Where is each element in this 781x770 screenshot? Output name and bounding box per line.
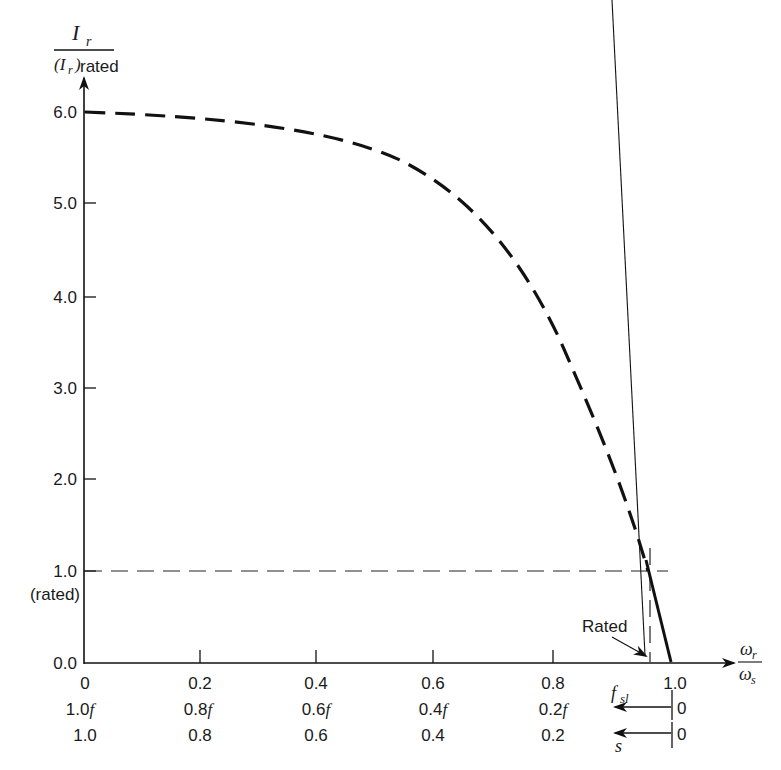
svg-text:Rated: Rated <box>582 617 627 636</box>
svg-text:0: 0 <box>80 674 89 693</box>
x-tick-labels: 0 0.2 0.4 0.6 0.8 1.0 <box>80 674 687 693</box>
svg-text:3.0: 3.0 <box>53 379 77 398</box>
svg-text:(rated): (rated) <box>30 585 80 604</box>
svg-text:0.4f: 0.4f <box>419 700 450 719</box>
svg-text:I: I <box>71 20 81 45</box>
svg-text:r: r <box>68 63 73 77</box>
svg-text:0.2f: 0.2f <box>539 700 570 719</box>
svg-text:4.0: 4.0 <box>53 288 77 307</box>
slip-direction-arrow: s 0 <box>615 722 686 756</box>
svg-text:0.0: 0.0 <box>53 654 77 673</box>
svg-text:rated: rated <box>80 57 119 76</box>
svg-text:0.8: 0.8 <box>188 726 212 745</box>
svg-text:r: r <box>86 34 92 49</box>
svg-text:0.4: 0.4 <box>421 726 445 745</box>
svg-text:r: r <box>752 648 757 662</box>
svg-text:f: f <box>611 683 619 703</box>
svg-text:0: 0 <box>677 725 686 744</box>
svg-text:0.6f: 0.6f <box>302 700 333 719</box>
x-axis-label: ω r ω s <box>738 639 762 687</box>
y-tick-labels: 0.0 1.0 (rated) 2.0 3.0 4.0 5.0 6.0 <box>30 103 80 673</box>
svg-text:ω: ω <box>739 664 752 684</box>
current-curve-dashed <box>85 112 648 571</box>
fsl-row: 1.0f 0.8f 0.6f 0.4f 0.2f <box>66 700 570 719</box>
svg-text:ω: ω <box>740 639 753 659</box>
svg-text:0.4: 0.4 <box>304 674 328 693</box>
svg-text:s: s <box>615 736 622 756</box>
rotor-current-chart: I r (I r ) rated 0.0 1.0 (rated) 2.0 3.0… <box>0 0 781 770</box>
svg-text:0: 0 <box>677 699 686 718</box>
svg-text:(I: (I <box>54 55 67 74</box>
y-ticks <box>84 112 96 571</box>
chart-container: I r (I r ) rated 0.0 1.0 (rated) 2.0 3.0… <box>0 0 781 770</box>
rated-annotation: Rated <box>582 0 646 656</box>
svg-text:1.0f: 1.0f <box>66 700 97 719</box>
svg-text:1.0: 1.0 <box>53 562 77 581</box>
svg-text:0.6: 0.6 <box>421 674 445 693</box>
svg-text:6.0: 6.0 <box>53 103 77 122</box>
svg-text:1.0: 1.0 <box>73 726 97 745</box>
svg-text:0.8: 0.8 <box>541 674 565 693</box>
svg-text:5.0: 5.0 <box>53 194 77 213</box>
svg-text:1.0: 1.0 <box>663 674 687 693</box>
svg-text:2.0: 2.0 <box>53 470 77 489</box>
svg-text:0.6: 0.6 <box>304 726 328 745</box>
svg-text:0.2: 0.2 <box>541 726 565 745</box>
svg-text:0.2: 0.2 <box>188 674 212 693</box>
slip-row: 1.0 0.8 0.6 0.4 0.2 <box>73 726 565 745</box>
svg-text:s: s <box>751 673 756 687</box>
svg-text:sl: sl <box>620 691 629 706</box>
y-axis-label: I r (I r ) rated <box>54 20 119 77</box>
x-ticks <box>200 650 553 663</box>
svg-text:0.8f: 0.8f <box>184 700 215 719</box>
